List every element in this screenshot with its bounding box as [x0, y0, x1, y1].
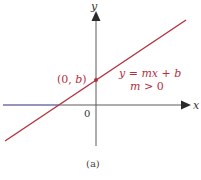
slope-condition-label: m > 0 [130, 80, 164, 93]
y-intercept-point [94, 78, 98, 82]
equation-label: y = mx + b [118, 67, 181, 80]
linear-function-diagram: y x 0 (0, b) y = mx + b m > 0 (a) [0, 0, 201, 180]
intercept-label: (0, b) [57, 73, 87, 86]
y-axis-label: y [90, 0, 98, 13]
figure-caption: (a) [86, 158, 100, 169]
origin-label: 0 [84, 108, 90, 119]
x-axis-arrow-icon [181, 101, 191, 110]
x-axis-label: x [193, 99, 200, 112]
